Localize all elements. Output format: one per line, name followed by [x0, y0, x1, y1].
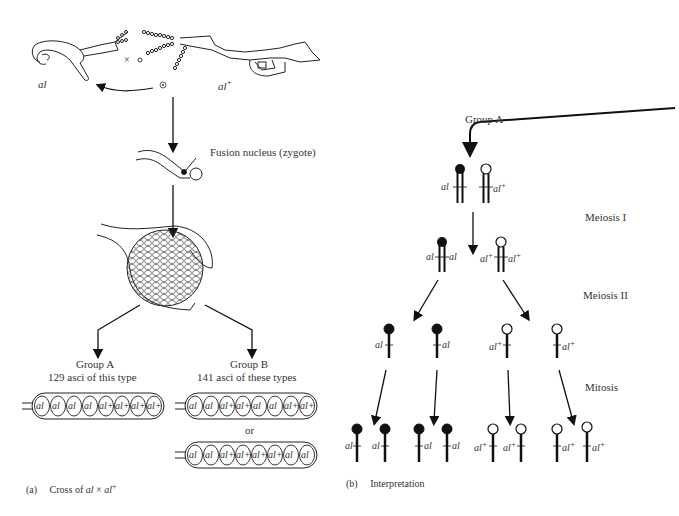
- arrow-to-group-a: [98, 305, 140, 354]
- spore-label: al+: [236, 400, 251, 411]
- spore-label: al+: [147, 400, 162, 411]
- chromatids-meiosis2: [384, 324, 562, 358]
- spore-label: al+: [300, 400, 315, 411]
- allele-label: al+: [480, 251, 493, 264]
- chromosome-dyad-al: [435, 237, 449, 272]
- caption-text: Cross of: [50, 484, 84, 495]
- label-al-parent: al: [38, 78, 47, 90]
- hypha-al-plus-drawing: [142, 30, 320, 76]
- plus-sup: +: [227, 78, 232, 87]
- spore-label: al: [84, 400, 92, 411]
- allele-label: al: [424, 440, 432, 451]
- group-b-title: Group B: [230, 358, 268, 370]
- spore-label: al+: [220, 400, 235, 411]
- allele-label: al: [442, 339, 450, 350]
- fusion-hypha-drawing: [136, 150, 202, 180]
- spore-label: al+: [99, 400, 114, 411]
- group-a-subtitle: 129 asci of this type: [48, 371, 137, 383]
- spore-label: al+: [284, 400, 299, 411]
- allele-label: al: [372, 440, 380, 451]
- fusion-nucleus-label: Fusion nucleus (zygote): [210, 146, 316, 158]
- allele-label: al: [441, 181, 449, 192]
- diagram-canvas: ×: [0, 0, 679, 516]
- caption-times: ×: [96, 484, 102, 495]
- al-text: al: [218, 80, 227, 92]
- chromatids-final: [352, 422, 592, 462]
- caption-tag: (a): [26, 484, 37, 495]
- spore-label: al+: [236, 449, 251, 460]
- arrow-meiosis2-right: [503, 280, 527, 317]
- group-a-title: Group A: [76, 358, 114, 370]
- allele-label: al+: [493, 181, 506, 194]
- allele-label: al: [375, 339, 383, 350]
- chromosome-pair-al: [453, 164, 467, 203]
- hypha-al-drawing: [32, 31, 128, 81]
- cross-symbol: ×: [124, 54, 130, 65]
- arrow-mitosis-3: [508, 370, 510, 421]
- caption-sup: +: [112, 482, 117, 491]
- arrow-mitosis-1: [375, 370, 386, 421]
- allele-label: al: [452, 440, 460, 451]
- spore-label: al: [301, 449, 309, 460]
- allele-label: al: [449, 251, 457, 262]
- spore-label: al+: [115, 400, 130, 411]
- caption-allele-2: al: [104, 484, 112, 495]
- allele-label: al+: [489, 339, 502, 352]
- spore-label: al: [285, 449, 293, 460]
- stage-meiosis-1: Meiosis I: [585, 211, 626, 223]
- spore-label: al: [205, 400, 213, 411]
- allele-label: al+: [503, 440, 516, 453]
- arrow-to-group-b: [205, 305, 252, 354]
- allele-label: al+: [562, 440, 575, 453]
- arrow-mitosis-2: [434, 370, 437, 421]
- caption-text: Interpretation: [370, 478, 424, 489]
- allele-label: al+: [508, 251, 521, 264]
- caption-a: (a) Cross of al × al+: [26, 482, 116, 495]
- panel-b-group-a-label: Group A: [465, 113, 503, 125]
- allele-label: al: [345, 440, 353, 451]
- spore-label: al: [52, 400, 60, 411]
- arrow-mitosis-4: [559, 370, 573, 421]
- spore-label: al+: [131, 400, 146, 411]
- stage-meiosis-2: Meiosis II: [583, 289, 628, 301]
- allele-label: al+: [474, 440, 487, 453]
- allele-label: al+: [592, 440, 605, 453]
- caption-b: (b) Interpretation: [346, 478, 425, 489]
- caption-tag: (b): [346, 478, 358, 489]
- spore-icon: [138, 58, 142, 62]
- or-label: or: [245, 424, 254, 436]
- allele-label: al: [426, 251, 434, 262]
- allele-label: al+: [562, 339, 575, 352]
- arrow-to-al: [100, 86, 153, 91]
- label-al-plus-parent: al+: [218, 78, 232, 92]
- spore-label: al+: [268, 449, 283, 460]
- spore-label: al: [36, 400, 44, 411]
- spore-label: al: [205, 449, 213, 460]
- chromosome-pair-al-plus: [479, 164, 493, 203]
- spore-label: al: [68, 400, 76, 411]
- arrow-meiosis2-left: [416, 280, 438, 317]
- caption-allele: al: [86, 484, 94, 495]
- group-b-subtitle: 141 asci of these types: [197, 371, 297, 383]
- spore-label: al: [189, 400, 197, 411]
- spore-label: al+: [252, 449, 267, 460]
- spore-label: al: [253, 400, 261, 411]
- spore-label: al: [189, 449, 197, 460]
- chromosome-dyad-al-plus: [494, 237, 508, 272]
- spore-label: al+: [220, 449, 235, 460]
- perithecium-drawing: [97, 224, 212, 310]
- spore-label: al: [269, 400, 277, 411]
- stage-mitosis: Mitosis: [585, 381, 618, 393]
